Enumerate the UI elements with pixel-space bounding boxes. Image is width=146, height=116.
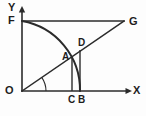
label-point-c: C bbox=[68, 95, 75, 105]
geometry-figure: Y F O X G A D C B bbox=[0, 0, 146, 116]
angle-marker-at-o bbox=[42, 78, 46, 91]
ray-og bbox=[22, 21, 124, 91]
label-point-d: D bbox=[78, 38, 85, 48]
label-x-axis: X bbox=[133, 85, 140, 96]
label-origin: O bbox=[5, 85, 14, 96]
label-point-f: F bbox=[8, 15, 15, 26]
label-point-g: G bbox=[129, 16, 138, 27]
x-axis-arrowhead bbox=[126, 88, 133, 94]
label-y-axis: Y bbox=[8, 2, 15, 13]
label-point-b: B bbox=[78, 95, 85, 105]
label-point-a: A bbox=[62, 52, 69, 62]
y-axis-arrowhead bbox=[19, 6, 25, 13]
